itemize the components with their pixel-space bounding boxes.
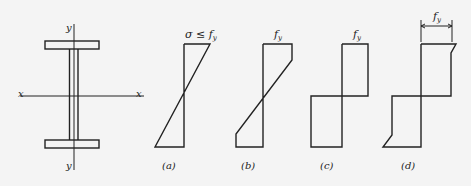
diagram-a-elastic [155, 44, 210, 147]
caption-c: (c) [320, 160, 334, 171]
label-b-fy: fy [273, 28, 283, 42]
label-c-fy: fy [352, 28, 362, 42]
i-beam-section [20, 24, 144, 170]
axis-label-x-left: x [18, 88, 24, 99]
diagram-b-partial-plastic [236, 44, 292, 147]
diagram-c-full-plastic [311, 44, 368, 147]
axis-label-y-top: y [65, 22, 72, 33]
label-a-stress: σ ≤ fy [185, 28, 218, 42]
stress-distribution-figure: x x y y σ ≤ fy fy fy fy (a) (b) (c) (d) [0, 0, 471, 186]
caption-d: (d) [401, 160, 415, 171]
caption-a: (a) [162, 160, 176, 171]
figure-canvas: x x y y σ ≤ fy fy fy fy (a) (b) (c) (d) [0, 0, 471, 186]
diagram-d-strain-hardening [383, 20, 456, 147]
caption-b: (b) [241, 160, 255, 171]
label-d-fy: fy [432, 10, 442, 24]
axis-label-x-right: x [136, 88, 142, 99]
axis-label-y-bottom: y [65, 160, 72, 171]
